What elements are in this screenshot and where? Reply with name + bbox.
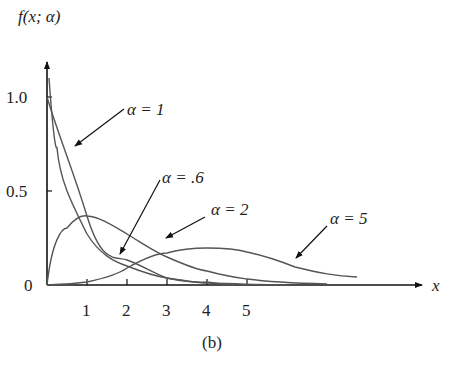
x-tick-label-5: 5 [242, 301, 251, 320]
gamma-density-chart: f(x; α) x 1.0 0.5 0 1 2 3 4 5 α = 1 α = … [0, 0, 457, 372]
annotation-alpha-1: α = 1 [127, 100, 164, 119]
x-axis-label: x [431, 276, 440, 295]
arrow-alpha-5 [296, 226, 327, 258]
y-tick-label-0: 0 [24, 276, 33, 295]
arrow-alpha-1 [75, 109, 124, 146]
curve-alpha-5 [47, 248, 357, 285]
y-tick-label-0.5: 0.5 [6, 182, 27, 201]
x-tick-label-2: 2 [122, 301, 131, 320]
annotation-alpha-0.6: α = .6 [162, 168, 204, 187]
x-tick-label-4: 4 [202, 301, 211, 320]
y-axis-label: f(x; α) [18, 7, 61, 26]
arrow-alpha-2 [166, 217, 205, 238]
y-axis-label-text: f(x; α) [18, 7, 61, 26]
annotation-alpha-5: α = 5 [330, 209, 367, 228]
annotation-alpha-2: α = 2 [211, 200, 249, 219]
y-tick-label-1.0: 1.0 [6, 88, 27, 107]
figure-caption: (b) [202, 333, 222, 352]
x-tick-label-1: 1 [82, 301, 91, 320]
arrow-alpha-0.6 [120, 180, 160, 254]
x-tick-label-3: 3 [162, 301, 171, 320]
